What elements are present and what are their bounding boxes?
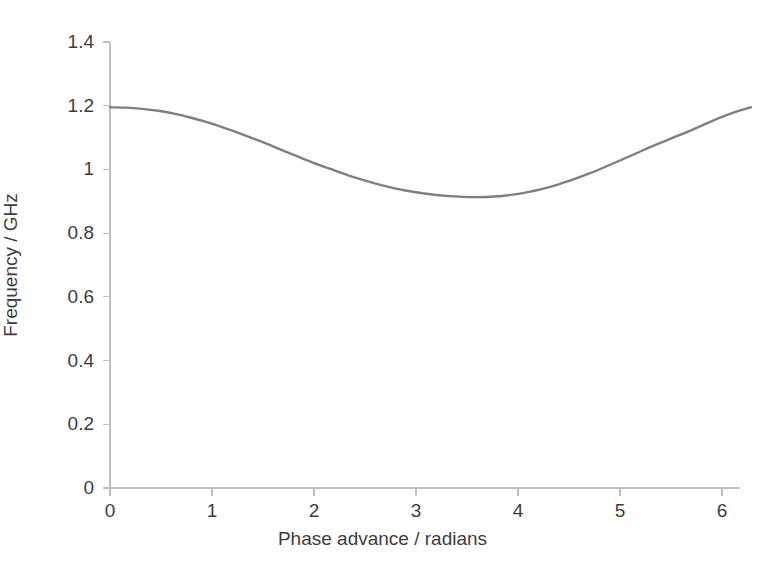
x-tick-label: 5: [615, 500, 626, 522]
x-tick-label: 4: [513, 500, 524, 522]
series-line-0: [110, 107, 751, 197]
x-tick-label: 6: [717, 500, 728, 522]
y-tick-label: 0: [30, 477, 94, 499]
x-tick-label: 1: [207, 500, 218, 522]
x-axis-title: Phase advance / radians: [0, 528, 765, 550]
y-tick-label: 0.8: [30, 222, 94, 244]
x-tick-label: 2: [309, 500, 320, 522]
data-series-group: [110, 107, 751, 197]
y-tick-label: 1: [30, 158, 94, 180]
axis-lines: [110, 42, 740, 488]
plot-area: [0, 0, 765, 583]
y-tick-label: 1.4: [30, 31, 94, 53]
axis-ticks: [103, 42, 722, 496]
y-tick-label: 0.2: [30, 413, 94, 435]
y-tick-label: 0.6: [30, 286, 94, 308]
chart-container: 00.20.40.60.811.21.4 0123456 Phase advan…: [0, 0, 765, 583]
y-axis-title: Frequency / GHz: [0, 193, 22, 337]
y-tick-label: 0.4: [30, 350, 94, 372]
x-tick-label: 0: [105, 500, 116, 522]
y-tick-label: 1.2: [30, 95, 94, 117]
x-tick-label: 3: [411, 500, 422, 522]
